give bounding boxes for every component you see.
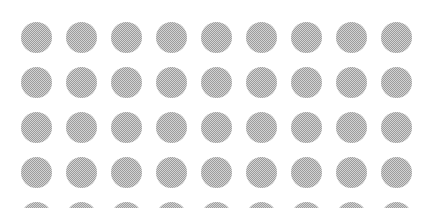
grid-dot xyxy=(156,112,187,143)
grid-dot xyxy=(336,202,367,209)
grid-dot xyxy=(291,202,322,209)
grid-dot xyxy=(66,67,97,98)
grid-dot xyxy=(111,157,142,188)
grid-dot xyxy=(21,202,52,209)
grid-dot xyxy=(201,202,232,209)
grid-dot xyxy=(381,157,412,188)
grid-dot xyxy=(156,157,187,188)
grid-dot xyxy=(111,112,142,143)
grid-dot xyxy=(246,67,277,98)
grid-dot xyxy=(66,202,97,209)
grid-dot xyxy=(66,157,97,188)
grid-dot xyxy=(336,157,367,188)
grid-dot xyxy=(291,112,322,143)
grid-dot xyxy=(21,157,52,188)
grid-dot xyxy=(336,112,367,143)
grid-dot xyxy=(201,112,232,143)
grid-dot xyxy=(291,67,322,98)
grid-dot xyxy=(156,67,187,98)
grid-dot xyxy=(156,202,187,209)
grid-dot xyxy=(291,157,322,188)
grid-dot xyxy=(156,22,187,53)
grid-dot xyxy=(291,22,322,53)
grid-dot xyxy=(111,67,142,98)
grid-dot xyxy=(66,112,97,143)
dot-grid-canvas xyxy=(0,0,428,208)
grid-dot xyxy=(21,112,52,143)
grid-dot xyxy=(201,22,232,53)
grid-dot xyxy=(381,112,412,143)
grid-dot xyxy=(336,67,367,98)
grid-dot xyxy=(336,22,367,53)
grid-dot xyxy=(111,22,142,53)
dot-grid xyxy=(0,0,428,208)
grid-dot xyxy=(201,157,232,188)
grid-dot xyxy=(21,67,52,98)
grid-dot xyxy=(381,202,412,209)
grid-dot xyxy=(21,22,52,53)
grid-dot xyxy=(381,22,412,53)
grid-dot xyxy=(246,202,277,209)
grid-dot xyxy=(201,67,232,98)
grid-dot xyxy=(246,112,277,143)
grid-dot xyxy=(66,22,97,53)
grid-dot xyxy=(111,202,142,209)
grid-dot xyxy=(381,67,412,98)
grid-dot xyxy=(246,157,277,188)
grid-dot xyxy=(246,22,277,53)
